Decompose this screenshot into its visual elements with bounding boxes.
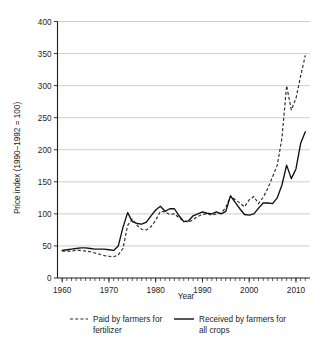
y-tick-label-350: 350	[38, 50, 52, 59]
y-tick-label-200: 200	[38, 146, 52, 155]
price-index-line-chart: 050100150200250300350400 196019701980199…	[0, 0, 323, 343]
x-axis-title: Year	[178, 292, 195, 301]
legend-label-fertilizer-line1: Paid by farmers for	[93, 315, 162, 324]
x-tick-label-1960: 1960	[53, 286, 72, 295]
y-axis-title: Price index (1990–1992 = 100)	[13, 102, 22, 214]
x-tick-label-1970: 1970	[100, 286, 119, 295]
y-tick-label-150: 150	[38, 178, 52, 187]
legend-label-fertilizer-line2: fertilizer	[93, 326, 122, 335]
x-tick-label-1980: 1980	[147, 286, 166, 295]
x-tick-label-2000: 2000	[240, 286, 259, 295]
y-tick-label-300: 300	[38, 82, 52, 91]
y-tick-label-0: 0	[47, 274, 52, 283]
x-tick-label-1990: 1990	[193, 286, 212, 295]
legend-label-all-crops-line1: Received by farmers for	[199, 315, 286, 324]
y-tick-label-100: 100	[38, 210, 52, 219]
legend-label-all-crops-line2: all crops	[199, 326, 230, 335]
x-tick-label-2010: 2010	[287, 286, 306, 295]
y-tick-label-250: 250	[38, 114, 52, 123]
y-tick-label-50: 50	[42, 242, 52, 251]
y-tick-label-400: 400	[38, 18, 52, 27]
